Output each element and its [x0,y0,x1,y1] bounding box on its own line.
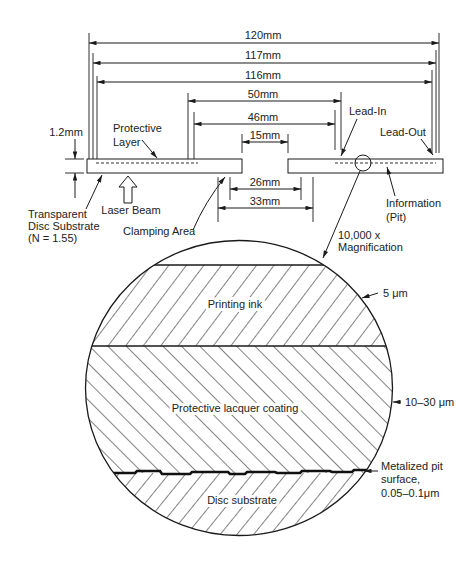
information-label-line2: (Pit) [386,211,406,223]
disc-substrate-label: Disc substrate [207,494,277,506]
information-label-line1: Information [386,197,441,209]
diagram-canvas: 120mm 117mm 116mm 50mm 46mm 15mm 26mm 33… [0,0,475,567]
lacquer-thickness-label: 10–30 μm [405,396,454,408]
dim-label-116mm: 116mm [245,69,281,81]
substrate-leader [86,175,102,209]
metalized-label-line1: Metalized pit [381,460,443,472]
ink-thickness-label: 5 μm [383,287,408,299]
protective-layer-callout: Protective Layer [113,122,162,158]
lead-out-label: Lead-Out [380,126,426,138]
dim-label-120mm: 120mm [245,29,282,41]
lead-out-leader [421,139,433,155]
lacquer-coating-label: Protective lacquer coating [172,402,299,414]
clamping-area-label: Clamping Area [123,225,196,237]
laser-beam-label: Laser Beam [101,204,160,216]
dim-label-117mm: 117mm [245,49,281,61]
dim-label-15mm: 15mm [250,129,281,141]
thickness-label: 1.2mm [49,126,83,138]
ink-thickness-callout: 5 μm [362,287,408,299]
extension-lines-left [89,33,242,159]
information-callout: Information (Pit) [386,167,441,223]
magnification-label-line2: Magnification [338,241,403,253]
dim-label-46mm: 46mm [248,111,279,123]
protective-layer-leader [142,140,157,158]
thickness-indicator: 1.2mm [49,126,84,198]
lacquer-thickness-callout: 10–30 μm [393,396,454,408]
metalized-label-line3: 0.05–0.1μm [381,487,439,499]
metalized-surface-callout: Metalized pit surface, 0.05–0.1μm [364,460,443,499]
cd-structure-diagram: 120mm 117mm 116mm 50mm 46mm 15mm 26mm 33… [0,0,475,567]
substrate-label-line1: Transparent [28,208,87,220]
protective-layer-label-line1: Protective [113,122,162,134]
dim-label-26mm: 26mm [250,176,281,188]
lead-out-callout: Lead-Out [380,126,433,155]
laser-beam-arrow-icon [119,176,137,203]
disc-left-half [87,159,242,173]
disc-cross-section [87,155,443,173]
clamping-area-leader [193,177,225,230]
ink-thickness-leader [362,293,378,298]
protective-layer-label-line2: Layer [113,136,141,148]
lead-in-label: Lead-In [349,105,386,117]
magnification-label-line1: 10,000 x [338,229,381,241]
substrate-label-line2: Disc Substrate [28,220,100,232]
dim-label-50mm: 50mm [248,88,279,100]
transparent-substrate-callout: Transparent Disc Substrate (N = 1.55) [28,175,102,244]
lead-in-leader [341,119,357,156]
metalized-label-line2: surface, [381,473,420,485]
printing-ink-label: Printing ink [208,298,263,310]
dimension-labels: 120mm 117mm 116mm 50mm 46mm 15mm 26mm 33… [245,29,282,207]
substrate-label-line3: (N = 1.55) [28,232,77,244]
dim-label-33mm: 33mm [250,195,281,207]
disc-substrate-layer [80,473,400,543]
